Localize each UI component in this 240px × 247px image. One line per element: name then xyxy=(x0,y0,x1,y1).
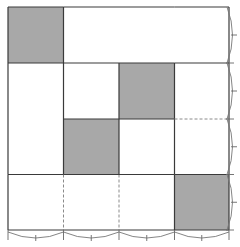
shaded-cell xyxy=(175,175,230,231)
shaded-cell xyxy=(64,119,120,175)
shaded-cell xyxy=(8,7,64,63)
shaded-cell xyxy=(119,63,175,119)
grid-diagram xyxy=(0,0,240,247)
